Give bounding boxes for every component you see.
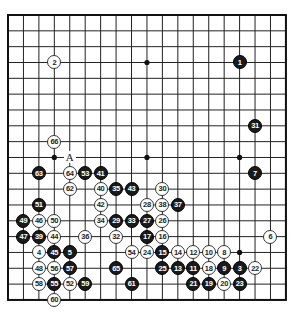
white-stone[interactable]: 14 — [171, 245, 185, 259]
move-number: 51 — [35, 201, 43, 209]
black-stone[interactable]: 17 — [140, 230, 154, 244]
white-stone[interactable]: 26 — [155, 214, 169, 228]
white-stone[interactable]: 64 — [63, 166, 77, 180]
black-stone[interactable]: 49 — [16, 214, 30, 228]
black-stone[interactable]: 53 — [78, 166, 92, 180]
black-stone[interactable]: 45 — [47, 245, 61, 259]
white-stone[interactable]: 36 — [78, 230, 92, 244]
white-stone[interactable]: 66 — [47, 135, 61, 149]
move-number: 63 — [35, 170, 43, 178]
move-number: 32 — [112, 233, 120, 241]
black-stone[interactable]: 57 — [63, 261, 77, 275]
black-stone[interactable]: 65 — [109, 261, 123, 275]
white-stone[interactable]: 30 — [155, 182, 169, 196]
move-number: 7 — [253, 170, 257, 178]
board-label-marker: A — [64, 151, 76, 163]
black-stone[interactable]: 23 — [233, 277, 247, 291]
black-stone[interactable]: 39 — [32, 230, 46, 244]
black-stone[interactable]: 13 — [171, 261, 185, 275]
black-stone[interactable]: 3 — [233, 261, 247, 275]
move-number: 14 — [174, 249, 182, 257]
white-stone[interactable]: 32 — [109, 230, 123, 244]
move-number: 9 — [222, 265, 226, 273]
white-stone[interactable]: 62 — [63, 182, 77, 196]
white-stone[interactable]: 12 — [186, 245, 200, 259]
move-number: 62 — [66, 185, 74, 193]
white-stone[interactable]: 8 — [217, 245, 231, 259]
white-stone[interactable]: 16 — [155, 230, 169, 244]
white-stone[interactable]: 58 — [32, 277, 46, 291]
move-number: 47 — [20, 233, 28, 241]
white-stone[interactable]: 22 — [248, 261, 262, 275]
white-stone[interactable]: 28 — [140, 198, 154, 212]
white-stone[interactable]: 6 — [263, 230, 277, 244]
move-number: 16 — [159, 233, 167, 241]
move-number: 58 — [35, 280, 43, 288]
black-stone[interactable]: 31 — [248, 119, 262, 133]
white-stone[interactable]: 56 — [47, 261, 61, 275]
white-stone[interactable]: 2 — [47, 55, 61, 69]
move-number: 12 — [189, 249, 197, 257]
move-number: 45 — [50, 249, 58, 257]
black-stone[interactable]: 41 — [94, 166, 108, 180]
move-number: 3 — [238, 265, 242, 273]
white-stone[interactable]: 48 — [32, 261, 46, 275]
move-number: 40 — [97, 185, 105, 193]
black-stone[interactable]: 33 — [125, 214, 139, 228]
move-number: 50 — [50, 217, 58, 225]
move-number: 23 — [236, 280, 244, 288]
black-stone[interactable]: 37 — [171, 198, 185, 212]
move-number: 39 — [35, 233, 43, 241]
move-number: 37 — [174, 201, 182, 209]
black-stone[interactable]: 5 — [63, 245, 77, 259]
black-stone[interactable]: 27 — [140, 214, 154, 228]
move-number: 21 — [189, 280, 197, 288]
black-stone[interactable]: 19 — [202, 277, 216, 291]
white-stone[interactable]: 50 — [47, 214, 61, 228]
white-stone[interactable]: 60 — [47, 293, 61, 307]
white-stone[interactable]: 4 — [32, 245, 46, 259]
white-stone[interactable]: 44 — [47, 230, 61, 244]
move-number: 26 — [159, 217, 167, 225]
white-stone[interactable]: 54 — [125, 245, 139, 259]
white-stone[interactable]: 38 — [155, 198, 169, 212]
move-number: 28 — [143, 201, 151, 209]
white-stone[interactable]: 42 — [94, 198, 108, 212]
go-board[interactable]: 1234567891011121314151617181920212223242… — [0, 0, 295, 315]
white-stone[interactable]: 34 — [94, 214, 108, 228]
black-stone[interactable]: 29 — [109, 214, 123, 228]
black-stone[interactable]: 55 — [47, 277, 61, 291]
move-number: 29 — [112, 217, 120, 225]
white-stone[interactable]: 10 — [202, 245, 216, 259]
white-stone[interactable]: 46 — [32, 214, 46, 228]
move-number: 13 — [174, 265, 182, 273]
black-stone[interactable]: 25 — [155, 261, 169, 275]
black-stone[interactable]: 63 — [32, 166, 46, 180]
black-stone[interactable]: 15 — [155, 245, 169, 259]
black-stone[interactable]: 59 — [78, 277, 92, 291]
white-stone[interactable]: 52 — [63, 277, 77, 291]
black-stone[interactable]: 7 — [248, 166, 262, 180]
black-stone[interactable]: 61 — [125, 277, 139, 291]
white-stone[interactable]: 20 — [217, 277, 231, 291]
white-stone[interactable]: 40 — [94, 182, 108, 196]
move-number: 52 — [66, 280, 74, 288]
black-stone[interactable]: 51 — [32, 198, 46, 212]
white-stone[interactable]: 18 — [202, 261, 216, 275]
black-stone[interactable]: 21 — [186, 277, 200, 291]
move-number: 8 — [222, 249, 226, 257]
black-stone[interactable]: 35 — [109, 182, 123, 196]
black-stone[interactable]: 9 — [217, 261, 231, 275]
black-stone[interactable]: 1 — [233, 55, 247, 69]
move-number: 57 — [66, 265, 74, 273]
move-number: 42 — [97, 201, 105, 209]
white-stone[interactable]: 24 — [140, 245, 154, 259]
black-stone[interactable]: 47 — [16, 230, 30, 244]
black-stone[interactable]: 43 — [125, 182, 139, 196]
black-stone[interactable]: 11 — [186, 261, 200, 275]
move-number: 61 — [128, 280, 136, 288]
move-number: 64 — [66, 170, 74, 178]
move-number: 65 — [112, 265, 120, 273]
move-number: 33 — [128, 217, 136, 225]
move-number: 25 — [159, 265, 167, 273]
